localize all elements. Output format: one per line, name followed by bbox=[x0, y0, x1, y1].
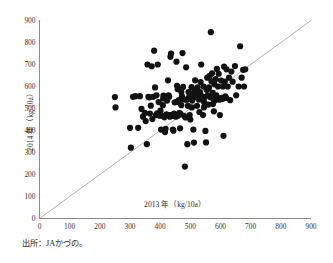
data-point bbox=[220, 133, 226, 139]
data-point bbox=[143, 118, 149, 124]
y-tick-label: 0 bbox=[32, 214, 36, 223]
data-point bbox=[149, 63, 155, 69]
data-point bbox=[202, 128, 208, 134]
data-point bbox=[211, 108, 217, 114]
data-point bbox=[166, 94, 172, 100]
scatter-plot-svg: 0100200300400500600700800900 01002003004… bbox=[0, 0, 333, 263]
data-point bbox=[179, 50, 185, 56]
data-point bbox=[205, 86, 211, 92]
x-tick-label: 300 bbox=[124, 222, 135, 231]
data-point bbox=[147, 110, 153, 116]
data-point bbox=[198, 61, 204, 67]
x-tick-label: 100 bbox=[64, 222, 75, 231]
data-point bbox=[151, 48, 157, 54]
data-point bbox=[216, 71, 222, 77]
data-point bbox=[192, 77, 198, 83]
data-point bbox=[155, 61, 161, 67]
data-point bbox=[173, 59, 179, 65]
data-point bbox=[191, 140, 197, 146]
y-tick-label: 200 bbox=[24, 170, 35, 179]
data-point bbox=[183, 64, 189, 70]
x-axis-title: 2013 年（kg/10a） bbox=[144, 199, 206, 209]
data-point bbox=[189, 104, 195, 110]
data-point bbox=[168, 50, 174, 56]
data-point bbox=[180, 84, 186, 90]
x-tick-labels: 0100200300400500600700800900 bbox=[38, 222, 317, 231]
data-point bbox=[229, 79, 235, 85]
data-point bbox=[148, 103, 154, 109]
scatter-plot-figure: 0100200300400500600700800900 01002003004… bbox=[0, 0, 333, 263]
x-tick-label: 800 bbox=[275, 222, 286, 231]
data-point bbox=[225, 83, 231, 89]
data-point bbox=[213, 76, 219, 82]
data-point bbox=[112, 104, 118, 110]
x-tick-label: 700 bbox=[245, 222, 256, 231]
data-point bbox=[182, 163, 188, 169]
y-tick-label: 100 bbox=[24, 192, 35, 201]
x-tick-label: 900 bbox=[305, 222, 316, 231]
data-point bbox=[162, 126, 168, 132]
data-point bbox=[137, 93, 143, 99]
y-tick-label: 900 bbox=[24, 16, 35, 25]
x-tick-label: 500 bbox=[185, 222, 196, 231]
data-point bbox=[236, 83, 242, 89]
data-point bbox=[237, 43, 243, 49]
data-point bbox=[217, 112, 223, 118]
data-point bbox=[184, 141, 190, 147]
data-point bbox=[152, 84, 158, 90]
data-point bbox=[227, 97, 233, 103]
data-point bbox=[177, 125, 183, 131]
data-point bbox=[208, 29, 214, 35]
x-tick-label: 600 bbox=[215, 222, 226, 231]
data-point bbox=[228, 68, 234, 74]
data-point bbox=[153, 92, 159, 98]
y-tick-label: 700 bbox=[24, 60, 35, 69]
data-point bbox=[210, 101, 216, 107]
data-point bbox=[239, 75, 245, 81]
data-point bbox=[135, 125, 141, 131]
y-tick-label: 800 bbox=[24, 38, 35, 47]
data-point bbox=[232, 63, 238, 69]
x-tick-label: 400 bbox=[155, 222, 166, 231]
data-point bbox=[200, 112, 206, 118]
data-point bbox=[203, 139, 209, 145]
data-point bbox=[160, 102, 166, 108]
data-point bbox=[178, 102, 184, 108]
data-point bbox=[165, 77, 171, 83]
data-point bbox=[127, 125, 133, 131]
data-point bbox=[242, 66, 248, 72]
data-point bbox=[233, 92, 239, 98]
data-point bbox=[170, 128, 176, 134]
data-point bbox=[241, 83, 247, 89]
y-axis-title: 2014 年（kg/10a） bbox=[25, 89, 35, 151]
data-point bbox=[128, 145, 134, 151]
data-point bbox=[201, 104, 207, 110]
data-point bbox=[187, 116, 193, 122]
x-tick-label: 0 bbox=[38, 222, 42, 231]
data-point bbox=[209, 70, 215, 76]
source-note: 出所：JAかづの。 bbox=[22, 238, 87, 249]
data-point bbox=[160, 95, 166, 101]
data-point bbox=[144, 141, 150, 147]
data-point bbox=[193, 88, 199, 94]
data-point bbox=[183, 96, 189, 102]
x-tick-label: 200 bbox=[94, 222, 105, 231]
data-points-group bbox=[112, 29, 249, 170]
data-point bbox=[190, 127, 196, 133]
data-point bbox=[112, 94, 118, 100]
